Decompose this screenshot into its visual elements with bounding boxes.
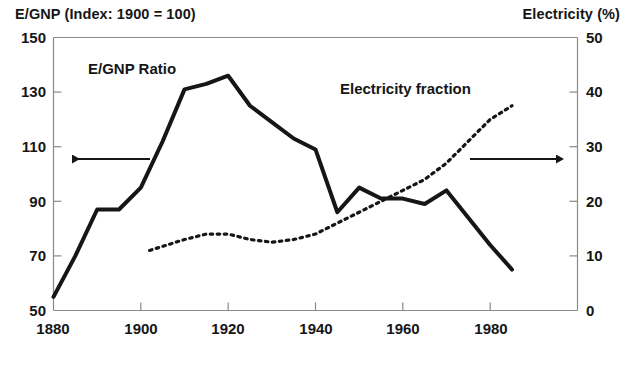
chart-figure: E/GNP (Index: 1900 = 100) Electricity (%… — [0, 0, 632, 366]
right-axis-ticks — [570, 92, 578, 256]
left-axis-ticks — [54, 92, 62, 256]
axis-frame — [54, 38, 578, 311]
series-line-egnp — [54, 76, 513, 297]
series-line-electricity — [150, 106, 512, 251]
x-axis-ticks — [141, 303, 490, 311]
plot-area — [0, 0, 632, 366]
